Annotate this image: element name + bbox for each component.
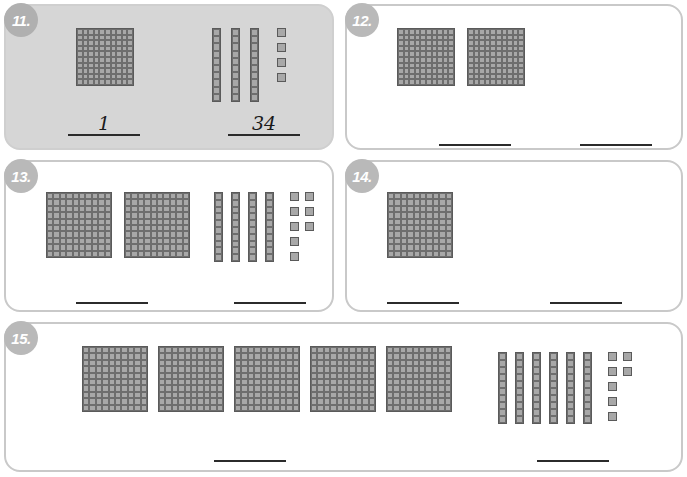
flat-cell: [183, 251, 189, 257]
rod-cell: [232, 193, 239, 200]
tens-ones-group: [214, 192, 320, 267]
rod-cell: [567, 395, 574, 402]
rod-cell: [550, 416, 557, 423]
rod-cell: [499, 402, 506, 409]
answer-blank-right[interactable]: [580, 122, 652, 146]
rod-cell: [213, 72, 220, 79]
rod-cell: [213, 36, 220, 43]
rod-cell: [584, 388, 591, 395]
answer-line-left: [214, 460, 286, 462]
hundreds-flat: [386, 346, 452, 412]
answer-blank-right[interactable]: [550, 280, 622, 304]
flat-cell: [293, 405, 299, 411]
answer-blank-right[interactable]: [234, 280, 306, 304]
rod-cell: [215, 247, 222, 254]
rod-cell: [499, 374, 506, 381]
rod-cell: [232, 254, 239, 261]
tens-rod: [265, 192, 274, 262]
rod-cell: [516, 360, 523, 367]
answer-value-right: [234, 280, 306, 302]
tens-group: [498, 352, 592, 424]
rod-cell: [584, 395, 591, 402]
tens-rod: [231, 28, 240, 102]
rod-cell: [213, 65, 220, 72]
hundreds-group: [76, 28, 134, 86]
hundreds-flat: [158, 346, 224, 412]
answer-blank-right[interactable]: [537, 438, 609, 462]
rod-cell: [533, 409, 540, 416]
rod-cell: [232, 65, 239, 72]
rod-cell: [215, 207, 222, 214]
tens-rod: [515, 352, 524, 424]
flat-cell: [369, 405, 375, 411]
ones-cube: [305, 222, 314, 231]
ones-cube: [305, 207, 314, 216]
rod-cell: [550, 388, 557, 395]
ones-cube: [277, 28, 286, 37]
hundreds-group: [397, 28, 525, 86]
rod-cell: [215, 193, 222, 200]
rod-cell: [266, 207, 273, 214]
tens-group: [212, 28, 259, 102]
rod-cell: [213, 51, 220, 58]
rod-cell: [232, 207, 239, 214]
problem-number-badge: 13.: [4, 159, 38, 193]
rod-cell: [232, 220, 239, 227]
flat-cell: [127, 79, 133, 85]
rod-cell: [251, 72, 258, 79]
rod-cell: [251, 36, 258, 43]
tens-rod: [248, 192, 257, 262]
ones-cube: [608, 382, 617, 391]
answer-blank-left[interactable]: [76, 280, 148, 304]
rod-cell: [516, 388, 523, 395]
rod-cell: [232, 94, 239, 101]
answer-blank-left[interactable]: [387, 280, 459, 304]
hundreds-flat: [234, 346, 300, 412]
rod-cell: [213, 79, 220, 86]
rod-cell: [232, 200, 239, 207]
rod-cell: [213, 87, 220, 94]
rod-cell: [584, 353, 591, 360]
answer-value-right: 34: [228, 112, 300, 134]
rod-cell: [567, 381, 574, 388]
rod-cell: [584, 360, 591, 367]
rod-cell: [567, 402, 574, 409]
rod-cell: [232, 58, 239, 65]
answer-blank-left[interactable]: 1: [68, 112, 140, 136]
ones-cube: [277, 58, 286, 67]
rod-cell: [251, 87, 258, 94]
rod-cell: [550, 381, 557, 388]
rod-cell: [516, 409, 523, 416]
rod-cell: [499, 367, 506, 374]
hundreds-group: [46, 192, 190, 258]
rod-cell: [232, 51, 239, 58]
problem-number-badge: 15.: [4, 321, 38, 355]
ones-cube: [623, 367, 632, 376]
answer-value-right: [537, 438, 609, 460]
rod-cell: [232, 234, 239, 241]
rod-cell: [567, 409, 574, 416]
answer-line-right: [537, 460, 609, 462]
rod-cell: [584, 402, 591, 409]
rod-cell: [249, 220, 256, 227]
rod-cell: [584, 381, 591, 388]
rod-cell: [266, 234, 273, 241]
answer-value-left: [214, 438, 286, 460]
answer-blank-right[interactable]: 34: [228, 112, 300, 136]
rod-cell: [232, 213, 239, 220]
answer-line-right: [228, 134, 300, 136]
rod-cell: [533, 360, 540, 367]
rod-cell: [567, 360, 574, 367]
rod-cell: [251, 58, 258, 65]
tens-ones-group: [212, 28, 292, 103]
worksheet: 11.13412.13.14.15.: [0, 0, 687, 477]
tens-rod: [214, 192, 223, 262]
hundreds-flat: [310, 346, 376, 412]
ones-cube: [290, 207, 299, 216]
answer-blank-left[interactable]: [439, 122, 511, 146]
rod-cell: [215, 220, 222, 227]
tens-rod: [212, 28, 221, 102]
rod-cell: [232, 87, 239, 94]
rod-cell: [533, 402, 540, 409]
answer-blank-left[interactable]: [214, 438, 286, 462]
